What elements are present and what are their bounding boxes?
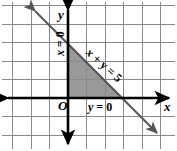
graph-canvas [0, 0, 177, 151]
boundary-label-y-rest: = 0 [93, 100, 112, 114]
boundary-label-x-var: x [53, 50, 67, 56]
x-axis-label: x [164, 100, 171, 113]
y-axis-label: y [58, 8, 64, 21]
coordinate-plane-figure: y x O y = 0 x = 0 x + y = 5 [0, 0, 177, 151]
boundary-label-x-rest: = 0 [53, 31, 67, 50]
boundary-label-x-equals-0: x = 0 [54, 31, 66, 56]
line-x-plus-y-equals-5 [35, 11, 157, 133]
origin-label: O [58, 99, 67, 112]
boundary-label-y-equals-0: y = 0 [88, 101, 112, 113]
